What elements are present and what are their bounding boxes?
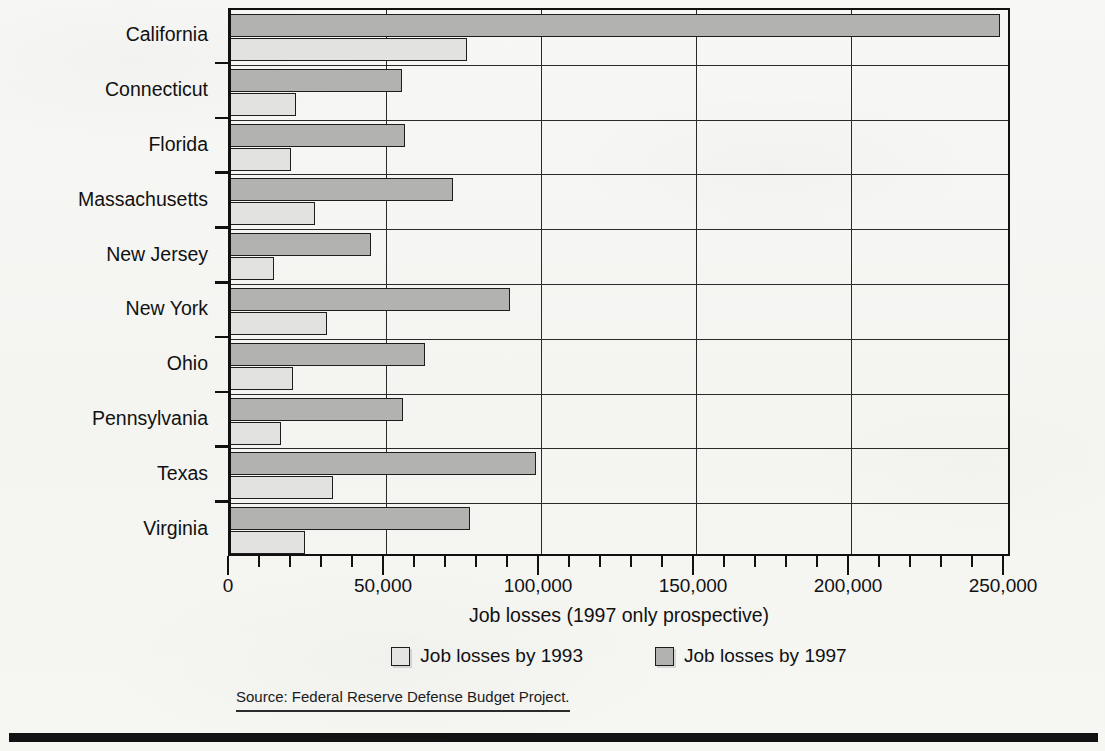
bar-1997 (231, 288, 510, 311)
x-axis-minor-tick (630, 556, 632, 567)
gridline-vertical (541, 10, 542, 554)
x-axis-major-tick (382, 556, 385, 575)
category-band-separator (231, 339, 1008, 340)
bar-chart-figure: CaliforniaConnecticutFloridaMassachusett… (0, 0, 1105, 751)
gridline-vertical (696, 10, 697, 554)
x-axis-title: Job losses (1997 only prospective) (228, 604, 1010, 627)
x-axis-tick-label: 100,000 (504, 576, 573, 595)
category-band-separator (231, 65, 1008, 66)
x-axis-minor-tick (475, 556, 477, 567)
y-axis-tick (215, 281, 228, 284)
x-axis-major-tick (227, 556, 230, 575)
category-band-separator (231, 284, 1008, 285)
category-axis-labels: CaliforniaConnecticutFloridaMassachusett… (0, 8, 222, 556)
category-label-texas: Texas (157, 464, 208, 484)
x-axis-minor-tick (754, 556, 756, 567)
x-axis-tick-label: 250,000 (969, 576, 1038, 595)
y-axis-tick (215, 117, 228, 120)
bar-1997 (231, 452, 536, 475)
medium-gray-swatch-icon (655, 647, 674, 666)
x-axis-minor-tick (320, 556, 322, 567)
y-axis-tick (215, 226, 228, 229)
x-axis-tick-label: 150,000 (659, 576, 728, 595)
bar-1997 (231, 124, 405, 147)
x-axis-minor-tick (506, 556, 508, 567)
bar-1993 (231, 93, 296, 116)
bar-1997 (231, 343, 425, 366)
bar-1997 (231, 69, 402, 92)
bar-1993 (231, 257, 274, 280)
y-axis-tick (215, 500, 228, 503)
category-band-separator (231, 174, 1008, 175)
bar-1993 (231, 422, 281, 445)
x-axis-major-tick (692, 556, 695, 575)
x-axis-minor-tick (878, 556, 880, 567)
x-axis: 050,000100,000150,000200,000250,000 (228, 556, 1010, 598)
x-axis-minor-tick (351, 556, 353, 567)
legend-item-1993: Job losses by 1993 (391, 645, 583, 667)
category-label-pennsylvania: Pennsylvania (92, 409, 208, 429)
category-label-california: California (126, 25, 208, 45)
bar-1997 (231, 178, 453, 201)
category-band-separator (231, 503, 1008, 504)
x-axis-minor-tick (413, 556, 415, 567)
x-axis-minor-tick (971, 556, 973, 567)
category-label-florida: Florida (148, 135, 208, 155)
x-axis-minor-tick (568, 556, 570, 567)
legend-label-1997: Job losses by 1997 (684, 645, 847, 667)
x-axis-minor-tick (289, 556, 291, 567)
bar-1993 (231, 148, 291, 171)
bar-1993 (231, 312, 327, 335)
y-axis-tick (215, 171, 228, 174)
category-band-separator (231, 394, 1008, 395)
y-axis-tick (215, 445, 228, 448)
category-band-separator (231, 448, 1008, 449)
x-axis-tick-label: 50,000 (354, 576, 412, 595)
bar-1993 (231, 38, 467, 61)
bar-1993 (231, 531, 305, 554)
category-label-new-york: New York (126, 299, 208, 319)
x-axis-major-tick (847, 556, 850, 575)
x-axis-minor-tick (785, 556, 787, 567)
category-label-connecticut: Connecticut (105, 80, 208, 100)
x-axis-major-tick (537, 556, 540, 575)
x-axis-minor-tick (661, 556, 663, 567)
x-axis-minor-tick (940, 556, 942, 567)
legend-item-1997: Job losses by 1997 (655, 645, 847, 667)
category-label-new-jersey: New Jersey (106, 245, 208, 265)
category-band-separator (231, 229, 1008, 230)
y-axis-tick (215, 336, 228, 339)
legend-label-1993: Job losses by 1993 (420, 645, 583, 667)
bar-1997 (231, 507, 470, 530)
bar-1997 (231, 14, 1000, 37)
y-axis-tick (215, 391, 228, 394)
bar-1993 (231, 476, 333, 499)
bar-1993 (231, 202, 315, 225)
x-axis-major-tick (1002, 556, 1005, 575)
x-axis-minor-tick (723, 556, 725, 567)
category-label-virginia: Virginia (143, 519, 208, 539)
light-gray-swatch-icon (391, 647, 410, 666)
plot-area (228, 8, 1010, 556)
bar-1997 (231, 233, 371, 256)
category-band-separator (231, 120, 1008, 121)
x-axis-minor-tick (909, 556, 911, 567)
category-label-massachusetts: Massachusetts (78, 190, 208, 210)
category-label-ohio: Ohio (167, 354, 208, 374)
x-axis-minor-tick (816, 556, 818, 567)
x-axis-tick-label: 0 (223, 576, 234, 595)
x-axis-minor-tick (599, 556, 601, 567)
source-note: Source: Federal Reserve Defense Budget P… (236, 688, 570, 712)
y-axis-tick (215, 62, 228, 65)
gridline-vertical (851, 10, 852, 554)
bar-1997 (231, 398, 403, 421)
chart-legend: Job losses by 1993 Job losses by 1997 (228, 645, 1010, 667)
x-axis-minor-tick (258, 556, 260, 567)
bar-1993 (231, 367, 293, 390)
x-axis-minor-tick (444, 556, 446, 567)
x-axis-tick-label: 200,000 (814, 576, 883, 595)
bottom-divider-rule (9, 733, 1098, 742)
